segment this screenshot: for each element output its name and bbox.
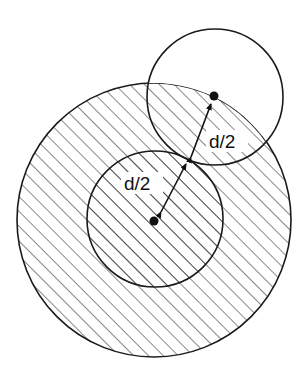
diagram-canvas: d/2 d/2 bbox=[0, 0, 302, 382]
small-center-point bbox=[210, 92, 219, 101]
inner-radius-label: d/2 bbox=[124, 173, 150, 194]
inner-center-point bbox=[150, 217, 159, 226]
small-radius-label: d/2 bbox=[209, 131, 235, 152]
